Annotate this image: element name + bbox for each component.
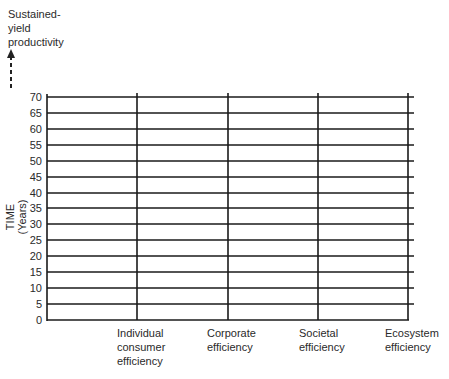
y-tick: 50 <box>22 155 42 167</box>
category-line: consumer <box>117 340 165 354</box>
y-tick: 70 <box>22 91 42 103</box>
category-line: efficiency <box>385 340 439 354</box>
category-line: efficiency <box>299 340 345 354</box>
category-label: Corporate efficiency <box>207 326 256 354</box>
chart-grid <box>0 0 449 379</box>
y-tick: 60 <box>22 123 42 135</box>
y-tick: 55 <box>22 139 42 151</box>
category-line: Corporate <box>207 326 256 340</box>
y-tick: 0 <box>22 314 42 326</box>
category-line: Individual <box>117 326 165 340</box>
y-tick: 45 <box>22 171 42 183</box>
y-tick: 20 <box>22 250 42 262</box>
y-tick: 5 <box>22 298 42 310</box>
category-line: Ecosystem <box>385 326 439 340</box>
y-tick: 15 <box>22 266 42 278</box>
category-label: Ecosystem efficiency <box>385 326 439 354</box>
category-label: Societal efficiency <box>299 326 345 354</box>
category-line: efficiency <box>207 340 256 354</box>
y-tick: 65 <box>22 107 42 119</box>
category-line: efficiency <box>117 354 165 368</box>
category-label: Individual consumer efficiency <box>117 326 165 368</box>
category-line: Societal <box>299 326 345 340</box>
y-tick: 10 <box>22 282 42 294</box>
y-axis-label: TIME (Years) <box>4 187 28 247</box>
